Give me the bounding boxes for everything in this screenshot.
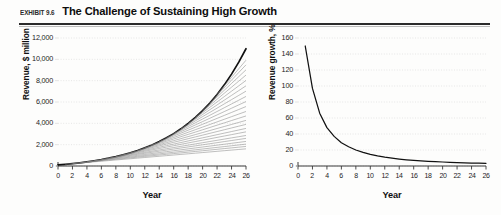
revenue-x-axis-title: Year xyxy=(38,190,266,200)
revenue-y-tick-label: 8,000 xyxy=(36,76,53,85)
revenue-growth-y-tick-label: 80 xyxy=(285,97,293,106)
revenue-y-tick-label: 12,000 xyxy=(32,33,53,42)
revenue-growth-plot-area: 0204060801001201401600246810121416182022… xyxy=(258,30,490,180)
revenue-growth-y-tick-label: 40 xyxy=(285,129,293,138)
exhibit-figure: EXHIBIT 9.6 The Challenge of Sustaining … xyxy=(0,0,501,215)
revenue-growth-y-tick-label: 60 xyxy=(285,113,293,122)
revenue-growth-y-tick-label: 140 xyxy=(282,49,293,58)
exhibit-title: The Challenge of Sustaining High Growth xyxy=(62,5,277,17)
revenue-growth-x-tick-label: 26 xyxy=(478,171,495,180)
revenue-y-tick-label: 4,000 xyxy=(36,118,53,127)
header-divider-shadow xyxy=(19,26,490,27)
revenue-plot-area: 02,0004,0006,0008,00010,00012,0000246810… xyxy=(18,30,250,180)
revenue-y-tick-label: 2,000 xyxy=(36,140,53,149)
revenue-growth-y-tick-label: 20 xyxy=(285,145,293,154)
revenue-x-tick-label: 26 xyxy=(238,171,255,180)
revenue-growth-y-tick-label: 120 xyxy=(282,65,293,74)
exhibit-number-label: EXHIBIT 9.6 xyxy=(20,8,55,17)
revenue-growth-y-tick-label: 160 xyxy=(282,33,293,42)
revenue-y-tick-label: 10,000 xyxy=(32,54,53,63)
revenue-growth-chart: 0204060801001201401600246810121416182022… xyxy=(258,30,490,215)
revenue-y-tick-label: 6,000 xyxy=(36,97,53,106)
exhibit-header: EXHIBIT 9.6 The Challenge of Sustaining … xyxy=(20,5,490,21)
revenue-growth-y-tick-label: 100 xyxy=(282,81,293,90)
revenue-growth-x-axis-title: Year xyxy=(278,190,501,200)
revenue-y-tick-label: 0 xyxy=(49,161,53,170)
revenue-growth-y-tick-label: 0 xyxy=(289,161,293,170)
revenue-chart: 02,0004,0006,0008,00010,00012,0000246810… xyxy=(18,30,250,215)
